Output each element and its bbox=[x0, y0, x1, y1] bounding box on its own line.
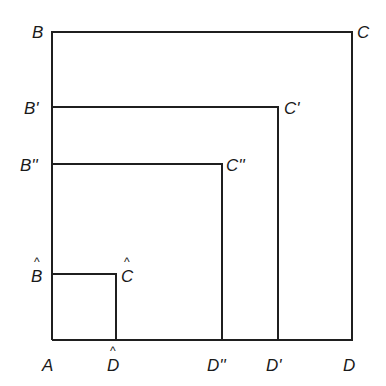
label-B2: B'' bbox=[20, 156, 39, 175]
label-C1: C' bbox=[284, 99, 300, 118]
label-B-hat: B bbox=[31, 267, 42, 286]
hat-mark-B: ^ bbox=[34, 255, 40, 269]
label-C: C bbox=[357, 23, 370, 42]
label-D2: D'' bbox=[207, 356, 227, 375]
hat-mark-D: ^ bbox=[110, 344, 116, 358]
square-AB1C1D1 bbox=[52, 107, 278, 340]
label-A: A bbox=[41, 356, 53, 375]
label-C2: C'' bbox=[226, 156, 246, 175]
label-D: D bbox=[343, 356, 355, 375]
square-ABhChDh bbox=[52, 274, 116, 340]
label-C-hat: C bbox=[121, 267, 134, 286]
hat-mark-C: ^ bbox=[124, 255, 130, 269]
label-D-hat: D bbox=[107, 356, 119, 375]
label-D1: D' bbox=[266, 356, 282, 375]
square-ABCD bbox=[52, 32, 352, 340]
label-B1: B' bbox=[24, 99, 39, 118]
square-AB2C2D2 bbox=[52, 164, 222, 340]
label-B: B bbox=[32, 23, 43, 42]
nested-squares-diagram: B C B' C' B'' C'' B ^ C ^ A D ^ D'' D' D bbox=[0, 0, 386, 386]
